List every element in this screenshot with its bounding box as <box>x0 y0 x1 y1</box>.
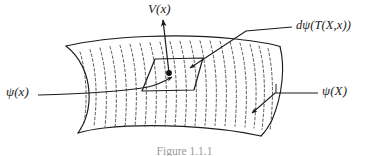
figure-caption: Figure 1.1.1 <box>0 145 369 156</box>
label-vector-field: V(x) <box>148 2 171 15</box>
label-section-upper: ψ(X) <box>322 84 347 97</box>
label-differential: dψ(T(X,x)) <box>296 19 351 32</box>
surface-hatching <box>80 41 272 131</box>
figure-container: V(x) dψ(T(X,x)) ψ(x) ψ(X) Figure 1.1.1 <box>0 0 369 156</box>
vertical-vector-arrow <box>163 20 169 73</box>
leader-psi-x <box>38 77 172 95</box>
surface-outline <box>66 36 283 136</box>
label-section-lower: ψ(x) <box>6 85 29 98</box>
leader-psi-X <box>252 93 318 113</box>
